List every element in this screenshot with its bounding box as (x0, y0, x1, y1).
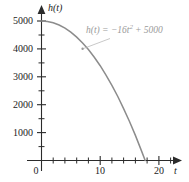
x-axis-label: t (174, 166, 177, 176)
y-tick-label-3000: 3000 (0, 72, 33, 82)
x-tick-label-20: 20 (149, 166, 169, 176)
equation-lhs: h(t) = −16t (86, 25, 129, 35)
x-axis-arrow-icon (173, 157, 182, 165)
function-graph-figure: 5000 4000 3000 2000 1000 0 10 20 h(t) t … (0, 0, 189, 182)
y-tick-label-2000: 2000 (0, 100, 33, 110)
annotation-point-dot (81, 48, 83, 50)
y-axis-label: h(t) (48, 3, 62, 13)
y-tick-label-4000: 4000 (0, 44, 33, 54)
equation-rhs: + 5000 (133, 25, 163, 35)
origin-label: 0 (30, 166, 42, 176)
y-tick-label-1000: 1000 (0, 128, 33, 138)
equation-annotation: h(t) = −16t2+ 5000 (86, 26, 163, 36)
y-tick-label-5000: 5000 (0, 16, 33, 26)
annotation-leader-line (84, 39, 111, 49)
x-tick-label-10: 10 (90, 166, 110, 176)
y-axis-arrow-icon (38, 5, 46, 14)
parabola-curve (42, 21, 146, 161)
